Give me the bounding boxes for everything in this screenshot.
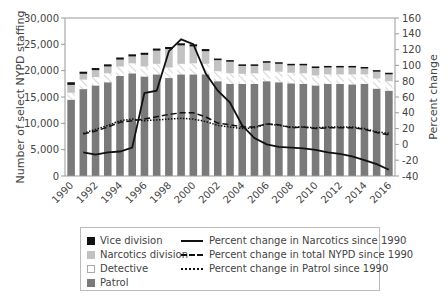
bar-1995 <box>128 54 136 176</box>
x-tick-label: 2004 <box>221 180 247 206</box>
x-tick-label: 2014 <box>343 180 369 206</box>
y-tick-label: 30,000 <box>24 13 59 24</box>
bar-segment-narcotics-division <box>116 60 124 67</box>
legend-label: Percent change in Patrol since 1990 <box>209 263 388 274</box>
bar-segment-detective <box>141 66 149 76</box>
bar-segment-narcotics-division <box>80 74 88 80</box>
y2-tick-label: 100 <box>402 60 421 71</box>
bar-segment-narcotics-division <box>300 65 308 73</box>
bar-segment-vice-division <box>177 43 185 45</box>
bar-segment-narcotics-division <box>251 66 259 73</box>
bar-segment-narcotics-division <box>385 74 393 81</box>
bar-segment-narcotics-division <box>92 70 100 77</box>
bar-segment-detective <box>348 74 356 84</box>
x-tick-label: 1996 <box>123 180 149 206</box>
legend-label: Percent change in Narcotics since 1990 <box>209 235 406 246</box>
bar-segment-vice-division <box>238 64 246 66</box>
bar-segment-vice-division <box>287 64 295 66</box>
bar-segment-vice-division <box>92 68 100 70</box>
bar-segment-detective <box>312 75 320 85</box>
bar-segment-detective <box>190 63 198 74</box>
bar-1992 <box>92 68 100 176</box>
bar-segment-narcotics-division <box>373 72 381 79</box>
bar-segment-vice-division <box>80 72 88 74</box>
bar-segment-patrol <box>238 84 246 176</box>
bar-segment-patrol <box>177 74 185 176</box>
bar-segment-vice-division <box>226 60 234 62</box>
x-tick-label: 1990 <box>50 180 76 206</box>
y2-tick-label: 60 <box>402 92 415 103</box>
bar-2007 <box>275 62 283 176</box>
bar-segment-detective <box>324 74 332 83</box>
y2-tick-label: 80 <box>402 76 415 87</box>
bar-segment-detective <box>165 68 173 79</box>
vice-swatch-icon <box>87 237 95 245</box>
bar-segment-patrol <box>263 81 271 176</box>
bar-segment-narcotics-division <box>324 68 332 75</box>
bar-segment-narcotics-division <box>238 66 246 74</box>
bar-segment-narcotics-division <box>104 66 112 73</box>
y-tick-label: 5,000 <box>30 144 59 155</box>
bar-segment-patrol <box>287 83 295 176</box>
legend-label: Percent change in total NYPD since 1990 <box>209 249 413 260</box>
bar-2006 <box>263 61 271 176</box>
legend-item-detective: Detective <box>87 263 148 274</box>
right-y-axis: -40-20020406080100120140160 <box>395 13 421 182</box>
legend-item-patrol-change: Percent change in Patrol since 1990 <box>181 263 388 274</box>
y-tick-label: 15,000 <box>24 92 59 103</box>
bar-segment-vice-division <box>312 66 320 68</box>
legend-item-narcotics: Narcotics division <box>87 249 188 260</box>
x-tick-label: 1994 <box>99 180 125 206</box>
bar-segment-vice-division <box>128 54 136 56</box>
bar-segment-detective <box>153 64 161 75</box>
x-tick-label: 2006 <box>245 180 271 206</box>
bar-1993 <box>104 64 112 176</box>
left-y-axis: 05,00010,00015,00020,00025,00030,000 <box>24 13 65 182</box>
bar-segment-vice-division <box>67 82 75 85</box>
bar-segment-patrol <box>336 84 344 176</box>
bar-segment-vice-division <box>300 64 308 66</box>
bar-1999 <box>177 43 185 176</box>
bar-segment-detective <box>251 73 259 84</box>
y2-tick-label: 0 <box>402 139 408 150</box>
bar-segment-detective <box>263 71 271 82</box>
legend-item-narcotics-change: Percent change in Narcotics since 1990 <box>181 235 406 246</box>
y2-tick-label: 140 <box>402 28 421 39</box>
bar-2010 <box>312 66 320 176</box>
bar-segment-vice-division <box>116 58 124 60</box>
bar-segment-patrol <box>324 84 332 176</box>
bar-1997 <box>153 49 161 176</box>
bar-segment-narcotics-division <box>141 55 149 67</box>
bar-2012 <box>336 66 344 176</box>
x-tick-label: 2002 <box>196 180 222 206</box>
bar-segment-patrol <box>312 85 320 176</box>
legend-item-vice: Vice division <box>87 235 163 246</box>
y2-tick-label: -40 <box>402 171 418 182</box>
bar-segment-detective <box>128 63 136 73</box>
y2-tick-label: 160 <box>402 13 421 24</box>
bar-segment-narcotics-division <box>202 51 210 64</box>
y2-tick-label: 120 <box>402 44 421 55</box>
x-tick-label: 2016 <box>368 180 394 206</box>
x-tick-label: 1998 <box>148 180 174 206</box>
bar-segment-narcotics-division <box>312 68 320 75</box>
bar-2000 <box>190 44 198 176</box>
bar-segment-patrol <box>214 81 222 176</box>
bar-segment-vice-division <box>385 73 393 75</box>
bar-segment-narcotics-division <box>287 65 295 72</box>
x-tick-label: 2008 <box>270 180 296 206</box>
bar-segment-narcotics-division <box>67 85 75 93</box>
bar-segment-detective <box>336 74 344 83</box>
right-y-axis-label: Percent change <box>427 54 440 140</box>
bar-2003 <box>226 60 234 176</box>
bar-segment-detective <box>300 73 308 84</box>
bar-segment-vice-division <box>336 66 344 68</box>
bar-segment-patrol <box>116 76 124 176</box>
y2-tick-label: 40 <box>402 107 415 118</box>
x-tick-label: 2010 <box>294 180 320 206</box>
bar-segment-detective <box>92 77 100 85</box>
bar-segment-patrol <box>385 91 393 176</box>
bar-segment-narcotics-division <box>153 51 161 64</box>
bar-1990 <box>67 82 75 176</box>
bar-segment-vice-division <box>202 49 210 51</box>
